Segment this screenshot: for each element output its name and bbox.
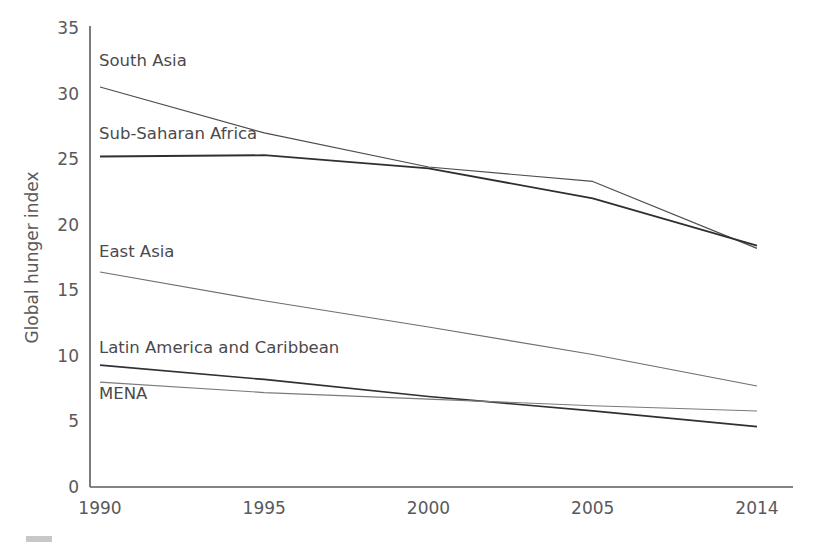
y-tick-label: 10: [57, 346, 79, 366]
y-tick-label: 30: [57, 84, 79, 104]
series-labels: South AsiaSub-Saharan AfricaEast AsiaLat…: [99, 51, 339, 403]
axes-group: [90, 26, 793, 487]
x-tick-label: 1990: [78, 498, 121, 518]
chart-figure: 05101520253035 19901995200020052014 Glob…: [0, 0, 822, 551]
x-tick-label: 2005: [571, 498, 614, 518]
y-tick-labels: 05101520253035: [57, 18, 79, 497]
y-axis-title: Global hunger index: [22, 171, 42, 343]
series-label-mena: MENA: [99, 384, 148, 403]
series-line-latin-america-and-caribbean: [100, 365, 757, 427]
series-label-south-asia: South Asia: [99, 51, 187, 70]
series-label-sub-saharan-africa: Sub-Saharan Africa: [99, 124, 257, 143]
y-tick-label: 5: [68, 411, 79, 431]
y-tick-label: 15: [57, 280, 79, 300]
y-axis-title-text: Global hunger index: [22, 171, 42, 343]
x-tick-label: 1995: [243, 498, 286, 518]
line-chart: 05101520253035 19901995200020052014 Glob…: [0, 0, 822, 551]
series-label-east-asia: East Asia: [99, 242, 174, 261]
series-label-latin-america-and-caribbean: Latin America and Caribbean: [99, 338, 339, 357]
series-line-sub-saharan-africa: [100, 155, 757, 245]
x-tick-label: 2000: [407, 498, 450, 518]
y-tick-label: 35: [57, 18, 79, 38]
grey-smudge-mark: [26, 536, 52, 542]
series-line-east-asia: [100, 272, 757, 386]
x-tick-labels: 19901995200020052014: [78, 498, 778, 518]
y-tick-label: 25: [57, 149, 79, 169]
y-tick-label: 0: [68, 477, 79, 497]
y-tick-label: 20: [57, 215, 79, 235]
x-tick-label: 2014: [735, 498, 778, 518]
